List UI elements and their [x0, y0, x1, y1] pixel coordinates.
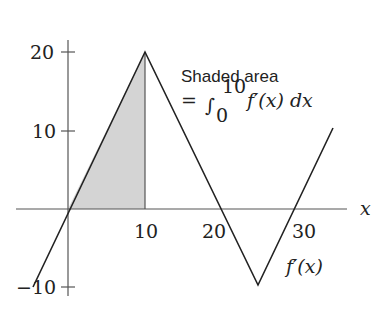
- integral-lower: 0: [216, 104, 228, 126]
- curve-label: f′(x): [284, 255, 323, 277]
- annotation-equals: =: [181, 89, 197, 111]
- x-tick-label-20: 20: [202, 220, 226, 242]
- x-tick-label-10: 10: [134, 220, 158, 242]
- integral-sign: ∫: [205, 94, 215, 116]
- integral-upper: 10: [222, 75, 246, 97]
- y-tick-label-neg10: −10: [16, 276, 56, 298]
- y-tick-label-10: 10: [32, 120, 56, 142]
- y-tick-label-20: 20: [30, 41, 54, 63]
- integrand: f′(x) dx: [245, 89, 313, 111]
- curve-f-prime: [33, 52, 333, 287]
- x-axis-label: x: [360, 197, 371, 219]
- chart: 20 10 −10 10 20 30 x Shaded area = ∫ 10 …: [0, 0, 386, 323]
- x-tick-label-30: 30: [292, 220, 316, 242]
